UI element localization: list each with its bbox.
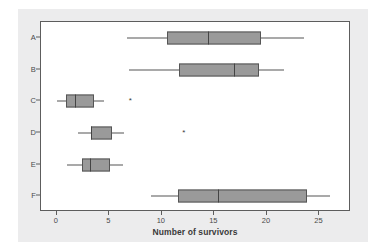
whisker-high-c <box>94 101 105 102</box>
x-tick-label-5: 5 <box>106 216 110 225</box>
y-tick-d <box>36 131 40 132</box>
whisker-low-b <box>129 69 178 70</box>
whisker-high-a <box>261 37 304 38</box>
whisker-low-d <box>78 132 92 133</box>
outlier-c-1: * <box>129 97 132 105</box>
x-tick-5 <box>108 211 109 215</box>
x-axis-tick-labels: 0510152025 <box>40 216 350 227</box>
box-b <box>179 63 259 76</box>
median-c <box>75 95 76 108</box>
y-axis-ticks <box>36 21 41 211</box>
x-tick-25 <box>318 211 319 215</box>
y-tick-a <box>36 36 40 37</box>
box-c <box>66 95 93 108</box>
y-tick-b <box>36 68 40 69</box>
plot-frame: ** <box>40 21 350 211</box>
y-tick-f <box>36 195 40 196</box>
whisker-low-c <box>57 101 66 102</box>
x-axis-title: Number of survivors <box>40 227 350 237</box>
whisker-low-a <box>127 37 167 38</box>
median-b <box>234 63 235 76</box>
median-e <box>90 158 91 171</box>
box-f <box>178 190 307 203</box>
x-tick-label-25: 25 <box>314 216 322 225</box>
x-tick-15 <box>213 211 214 215</box>
whisker-high-d <box>112 132 124 133</box>
x-tick-label-0: 0 <box>54 216 58 225</box>
box-d <box>91 126 112 139</box>
box-a <box>167 31 261 44</box>
median-d <box>91 126 92 139</box>
y-axis-labels: ABCDEF <box>24 21 36 211</box>
whisker-high-b <box>259 69 284 70</box>
chart-screenshot: ** ABCDEF 0510152025 Number of survivors <box>0 0 375 251</box>
x-tick-10 <box>161 211 162 215</box>
x-tick-label-20: 20 <box>262 216 270 225</box>
x-tick-label-15: 15 <box>209 216 217 225</box>
plot-area: ** <box>41 22 349 210</box>
x-tick-20 <box>266 211 267 215</box>
whisker-low-f <box>151 196 177 197</box>
y-tick-c <box>36 100 40 101</box>
x-tick-label-10: 10 <box>157 216 165 225</box>
whisker-low-e <box>67 164 82 165</box>
y-tick-e <box>36 163 40 164</box>
whisker-high-f <box>307 196 330 197</box>
box-e <box>82 158 110 171</box>
median-a <box>208 31 209 44</box>
whisker-high-e <box>110 164 123 165</box>
median-f <box>218 190 219 203</box>
outlier-d-1: * <box>182 129 185 137</box>
x-tick-0 <box>56 211 57 215</box>
